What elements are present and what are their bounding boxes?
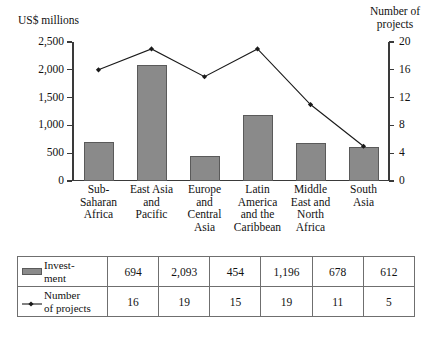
chart-figure: US$ millions Number of projects 05001,00… xyxy=(0,0,441,349)
right-tick-label: 0 xyxy=(399,175,405,187)
category-label: Middle East and North Africa xyxy=(284,183,337,233)
table-row: Number of projects16191519115 xyxy=(18,287,415,317)
left-tick-label: 1,500 xyxy=(38,92,64,104)
left-tick-label: 2,500 xyxy=(38,36,64,48)
right-tick-label: 16 xyxy=(399,64,411,76)
line-path xyxy=(99,49,364,146)
table-cell: 11 xyxy=(312,287,363,317)
line-markers xyxy=(96,46,366,149)
line-marker xyxy=(149,46,154,51)
category-label: Europe and Central Asia xyxy=(178,183,231,233)
category-label: East Asia and Pacific xyxy=(125,183,178,221)
right-tick-label: 4 xyxy=(399,147,405,159)
bar-swatch-icon xyxy=(22,268,42,275)
plot-area: 05001,0001,5002,0002,500 048121620 xyxy=(72,42,390,181)
table-cell: 19 xyxy=(261,287,312,317)
category-label: South Asia xyxy=(337,183,390,208)
table-cell: 19 xyxy=(159,287,210,317)
line-series xyxy=(72,42,390,181)
right-axis-title: Number of projects xyxy=(352,5,438,31)
left-tick-label: 1,000 xyxy=(38,119,64,131)
left-axis-title: US$ millions xyxy=(18,14,79,27)
table-cell: 678 xyxy=(312,257,363,287)
table-cell: 1,196 xyxy=(261,257,312,287)
category-label: Latin America and the Caribbean xyxy=(231,183,284,233)
line-marker-icon xyxy=(22,298,42,306)
data-table: Invest- ment6942,0934541,196678612Number… xyxy=(17,256,415,317)
legend-label: Number of projects xyxy=(44,289,91,314)
table-cell: 694 xyxy=(108,257,159,287)
table-cell: 454 xyxy=(210,257,261,287)
legend-cell: Invest- ment xyxy=(18,257,108,287)
legend-cell: Number of projects xyxy=(18,287,108,317)
right-tick-label: 8 xyxy=(399,119,405,131)
category-label: Sub- Saharan Africa xyxy=(72,183,125,221)
table-cell: 16 xyxy=(108,287,159,317)
line-marker xyxy=(96,67,101,72)
left-tick-label: 500 xyxy=(47,147,64,159)
table-cell: 612 xyxy=(363,257,414,287)
right-tick-label: 12 xyxy=(399,92,411,104)
table-cell: 15 xyxy=(210,287,261,317)
left-tick-label: 2,000 xyxy=(38,64,64,76)
table-cell: 2,093 xyxy=(159,257,210,287)
left-tick-label: 0 xyxy=(58,175,64,187)
line-marker xyxy=(202,74,207,79)
table-cell: 5 xyxy=(363,287,414,317)
table-row: Invest- ment6942,0934541,196678612 xyxy=(18,257,415,287)
right-tick-label: 20 xyxy=(399,36,411,48)
legend-label: Invest- ment xyxy=(44,259,75,284)
